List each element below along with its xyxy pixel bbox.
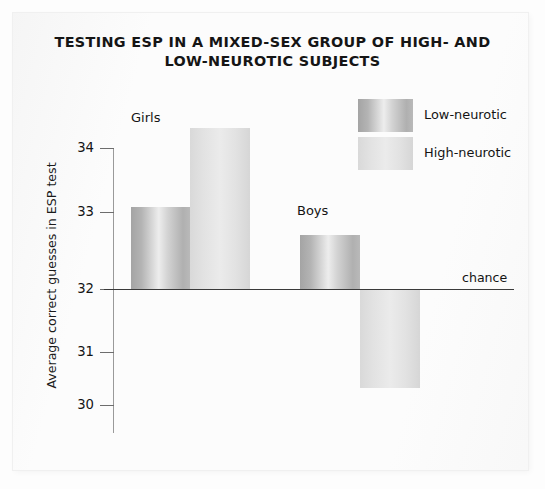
chart-title: TESTING ESP IN A MIXED-SEX GROUP OF HIGH… <box>40 33 505 70</box>
y-tick-mark-33 <box>100 212 114 213</box>
bar-boys-low-neurotic <box>300 235 360 289</box>
y-tick-mark-34 <box>100 148 114 149</box>
chart-page: TESTING ESP IN A MIXED-SEX GROUP OF HIGH… <box>0 0 545 489</box>
bar-girls-low-neurotic <box>131 207 190 289</box>
bar-girls-high-neurotic <box>190 128 250 289</box>
y-tick-label-33: 33 <box>60 204 94 219</box>
y-tick-label-30: 30 <box>60 397 94 412</box>
y-tick-mark-31 <box>100 352 114 353</box>
bar-boys-high-neurotic <box>360 290 420 388</box>
chance-annotation: chance <box>462 270 507 285</box>
y-tick-label-31: 31 <box>60 344 94 359</box>
group-label-boys: Boys <box>297 203 328 218</box>
legend-label-high-neurotic: High-neurotic <box>424 145 511 160</box>
y-tick-mark-30 <box>100 405 114 406</box>
legend-swatch-low-neurotic <box>358 99 413 132</box>
legend-swatch-high-neurotic <box>358 137 413 170</box>
y-axis-title: Average correct guesses in ESP test <box>44 161 59 391</box>
y-tick-label-32: 32 <box>60 281 94 296</box>
y-axis-line <box>113 148 114 433</box>
group-label-girls: Girls <box>131 110 160 125</box>
chart-canvas: TESTING ESP IN A MIXED-SEX GROUP OF HIGH… <box>0 0 545 489</box>
chance-baseline <box>104 289 514 290</box>
legend-label-low-neurotic: Low-neurotic <box>424 107 507 122</box>
y-tick-label-34: 34 <box>60 140 94 155</box>
